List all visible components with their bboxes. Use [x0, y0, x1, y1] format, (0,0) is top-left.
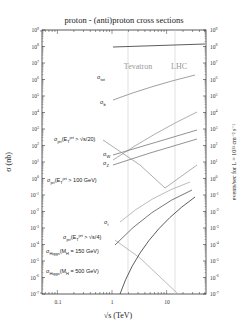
- y-axis-label: σ (nb): [4, 152, 13, 172]
- y-tick-right: 105: [210, 92, 218, 100]
- y-axis-left: 10910810710610510410310210110010-110-210…: [30, 26, 45, 298]
- label-sigma-b: σb: [100, 99, 106, 107]
- label-sigma-w: σW: [103, 151, 110, 159]
- chart-title: proton - (anti)proton cross sections: [65, 15, 184, 25]
- y-tick-left: 105: [32, 92, 40, 100]
- curve-sigma-higgs-500: [120, 197, 195, 294]
- y-tick-right: 104: [210, 108, 218, 116]
- label-sigma-jet-s20: σjet(ETjet > √s/20): [54, 135, 96, 144]
- y-tick-left: 100: [32, 174, 40, 182]
- y-tick-right: 100: [210, 174, 218, 182]
- y-tick-left: 10-3: [30, 224, 39, 232]
- y-tick-left: 10-4: [30, 240, 39, 248]
- label-sigma-t: σt: [104, 219, 109, 227]
- y-tick-right: 107: [210, 59, 218, 67]
- y-tick-left: 108: [32, 42, 40, 50]
- y-tick-left: 103: [32, 125, 40, 133]
- y-tick-left: 102: [32, 141, 40, 149]
- label-sigma-higgs-150: σHiggs(MH = 150 GeV): [46, 248, 99, 256]
- label-sigma-z: σZ: [103, 160, 109, 168]
- curve-sigma-t: [120, 182, 190, 222]
- tevatron-label: Tevatron: [124, 62, 152, 71]
- y-tick-right: 10-3: [210, 224, 219, 232]
- label-sigma-tot: σtot: [97, 74, 106, 82]
- y-tick-left: 101: [32, 158, 40, 166]
- lhc-label: LHC: [171, 62, 187, 71]
- x-tick-1: 1: [111, 299, 114, 305]
- label-sigma-jet-s4: σjet(ETjet > √s/4): [63, 233, 101, 242]
- y-tick-right: 10-4: [210, 240, 219, 248]
- cross-section-chart: proton - (anti)proton cross sections Tev…: [0, 0, 242, 330]
- y-tick-left: 104: [32, 108, 40, 116]
- y-tick-left: 106: [32, 75, 40, 83]
- y-axis-right: 10910810710610510410310210110010-110-210…: [203, 26, 219, 298]
- x-tick-0.1: 0.1: [55, 299, 62, 305]
- y-tick-right: 10-6: [210, 273, 219, 281]
- y-tick-right: 103: [210, 125, 218, 133]
- y-axis-right-label: events/sec for L = 10³³ cm⁻² s⁻¹: [231, 124, 237, 201]
- y-tick-left: 10-5: [30, 257, 39, 265]
- y-tick-left: 107: [32, 59, 40, 67]
- y-tick-right: 102: [210, 141, 218, 149]
- curve-sigma-jet-s20: [113, 112, 197, 160]
- y-tick-left: 10-1: [30, 191, 39, 199]
- x-axis-label: √s (TeV): [104, 311, 133, 320]
- curve-sigma-jet-100-rising: [165, 165, 197, 188]
- y-tick-right: 10-1: [210, 191, 219, 199]
- x-tick-10: 10: [164, 299, 170, 305]
- curve-sigma-jet-100-falling: [103, 140, 165, 188]
- y-tick-left: 10-7: [30, 290, 39, 298]
- y-tick-left: 109: [32, 26, 40, 34]
- y-tick-left: 10-6: [30, 273, 39, 281]
- curve-sigma-tot: [113, 44, 205, 47]
- curve-sigma-b: [113, 75, 195, 100]
- curve-sigma-jet-s4: [115, 240, 178, 294]
- y-tick-right: 101: [210, 158, 218, 166]
- label-sigma-jet-100: σjet(ETjet > 100 GeV): [47, 176, 97, 185]
- y-tick-right: 10-7: [210, 290, 219, 298]
- y-tick-right: 109: [210, 26, 218, 34]
- y-tick-right: 10-5: [210, 257, 219, 265]
- y-tick-right: 10-2: [210, 207, 219, 215]
- label-sigma-higgs-500: σHiggs(MH = 500 GeV): [46, 268, 99, 276]
- y-tick-left: 10-2: [30, 207, 39, 215]
- y-tick-right: 108: [210, 42, 218, 50]
- y-tick-right: 106: [210, 75, 218, 83]
